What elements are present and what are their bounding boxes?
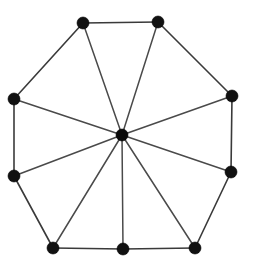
graph-vertex (47, 242, 59, 254)
graph-hub-vertex (116, 129, 128, 141)
graph-vertex (77, 17, 89, 29)
graph-rim-edge (53, 248, 123, 249)
graph-vertex (8, 93, 20, 105)
graph-rim-edge (231, 96, 232, 172)
graph-rim-edge (83, 22, 158, 23)
graph-spoke-edge (122, 135, 123, 249)
graph-rim-edge (123, 248, 195, 249)
graph-vertex (226, 90, 238, 102)
graph-vertex (8, 170, 20, 182)
graph-vertex (225, 166, 237, 178)
graph-vertex (117, 243, 129, 255)
graph-vertex (189, 242, 201, 254)
wheel-graph-svg (0, 0, 253, 268)
graph-figure-container: Nine-vertex outer polygon cycle with a c… (0, 0, 253, 268)
graph-vertex (152, 16, 164, 28)
